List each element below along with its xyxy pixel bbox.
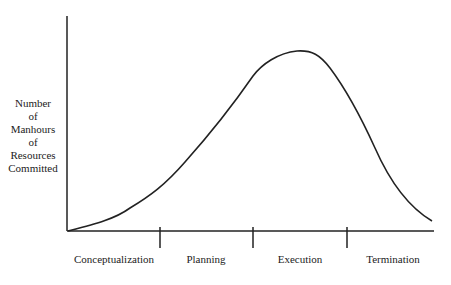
plot-area <box>0 0 451 285</box>
x-label-termination: Termination <box>338 253 448 265</box>
resource-curve <box>68 51 432 231</box>
